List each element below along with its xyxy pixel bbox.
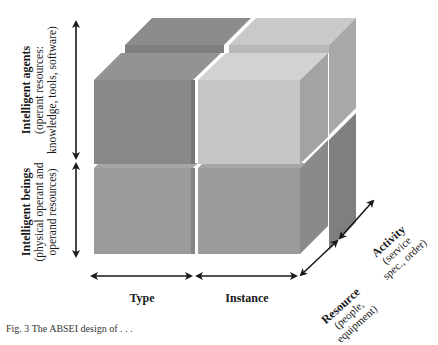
intelligent-beings-label: Intelligent beings (physical operant and… [20, 162, 59, 262]
intelligent-beings-subtitle-1: (physical operant and [33, 162, 46, 262]
front-bottom-left-block [94, 163, 198, 254]
intelligent-agents-subtitle-2: knowledge, tools, software) [46, 20, 59, 160]
intelligent-beings-subtitle-2: operand resources) [46, 162, 59, 262]
front-top-right-block [198, 53, 328, 164]
figure-caption: Fig. 3 The ABSEI design of . . . [6, 323, 132, 334]
intelligent-agents-subtitle-1: (operant resources: [33, 20, 46, 160]
intelligent-beings-title: Intelligent beings [20, 162, 33, 262]
type-label: Type [112, 291, 172, 306]
intelligent-agents-label: Intelligent agents (operant resources: k… [20, 20, 59, 160]
back-bottom-right-block [329, 113, 356, 250]
instance-label: Instance [212, 291, 282, 306]
intelligent-agents-title: Intelligent agents [20, 20, 33, 160]
